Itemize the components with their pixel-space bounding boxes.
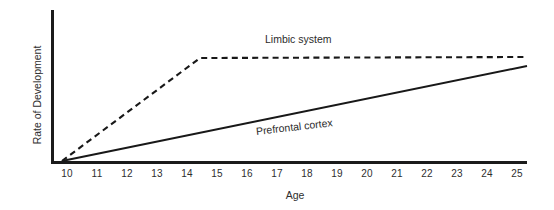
x-tick-label-22: 22 <box>421 169 433 179</box>
x-tick-label-10: 10 <box>61 169 73 179</box>
chart-figure: Rate of Development Age 10 11 12 13 14 1… <box>0 0 554 210</box>
x-axis-title: Age <box>286 190 305 201</box>
x-tick-label-19: 19 <box>331 169 343 179</box>
series-line-prefrontal-cortex <box>62 66 527 161</box>
x-tick-label-21: 21 <box>391 169 403 179</box>
x-tick-label-24: 24 <box>481 169 493 179</box>
y-axis-title: Rate of Development <box>32 46 43 145</box>
x-tick-label-14: 14 <box>181 169 193 179</box>
x-tick-label-15: 15 <box>211 169 223 179</box>
x-tick-label-11: 11 <box>92 169 103 179</box>
x-tick-label-16: 16 <box>241 169 253 179</box>
x-tick-label-25: 25 <box>511 169 523 179</box>
x-tick-label-18: 18 <box>301 169 313 179</box>
x-tick-label-23: 23 <box>451 169 463 179</box>
x-tick-label-13: 13 <box>151 169 163 179</box>
x-tick-label-20: 20 <box>361 169 373 179</box>
series-annotation-limbic-system: Limbic system <box>265 34 332 45</box>
series-line-limbic-system <box>62 57 527 161</box>
x-tick-label-12: 12 <box>121 169 133 179</box>
x-tick-label-17: 17 <box>271 169 283 179</box>
